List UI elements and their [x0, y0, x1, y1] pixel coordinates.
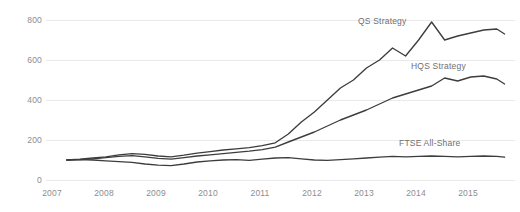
- x-axis-tick-2015: 2015: [448, 188, 488, 198]
- x-axis-tick-2012: 2012: [292, 188, 332, 198]
- y-axis-tick-200: 200: [8, 135, 42, 145]
- y-axis-tick-600: 600: [8, 55, 42, 65]
- x-axis-tick-2014: 2014: [396, 188, 436, 198]
- x-axis-tick-2011: 2011: [240, 188, 280, 198]
- y-axis-tick-0: 0: [8, 175, 42, 185]
- y-axis-tick-400: 400: [8, 95, 42, 105]
- y-axis-tick-800: 800: [8, 15, 42, 25]
- chart-plot-area: [0, 0, 520, 212]
- x-axis-tick-2013: 2013: [344, 188, 384, 198]
- x-axis-tick-2010: 2010: [188, 188, 228, 198]
- series-label-ftse-all-share: FTSE All-Share: [399, 138, 460, 148]
- x-axis-tick-2009: 2009: [136, 188, 176, 198]
- x-axis-tick-2007: 2007: [32, 188, 72, 198]
- x-axis-tick-2008: 2008: [84, 188, 124, 198]
- series-label-hqs-strategy: HQS Strategy: [411, 61, 466, 71]
- series-line-ftse-all-share: [67, 156, 505, 166]
- line-chart: 800 600 400 200 0 2007 2008 2009 2010 20…: [0, 0, 520, 212]
- series-label-qs-strategy: QS Strategy: [358, 16, 407, 26]
